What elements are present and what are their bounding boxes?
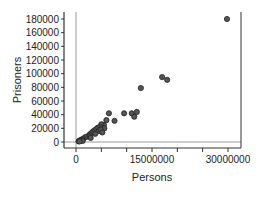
- data-point: [134, 109, 139, 114]
- y-tick-label: 120000: [26, 55, 60, 66]
- data-point: [132, 114, 137, 119]
- y-tick-label: 180000: [26, 14, 60, 25]
- plot-area: [64, 12, 241, 148]
- y-tick-label: 40000: [31, 109, 59, 120]
- data-point: [93, 131, 98, 136]
- y-axis: 0200004000060000800001000001200001400001…: [26, 12, 64, 148]
- y-tick-label: 0: [53, 137, 59, 148]
- data-point: [122, 111, 127, 116]
- scatter-chart: 01500000030000000 0200004000060000800001…: [0, 0, 265, 197]
- y-tick-label: 80000: [31, 82, 59, 93]
- y-tick-label: 20000: [31, 123, 59, 134]
- data-point: [77, 139, 82, 144]
- x-tick-label: 30000000: [206, 154, 251, 165]
- data-point: [160, 74, 165, 79]
- data-point: [138, 85, 143, 90]
- y-axis-label: Prisoners: [11, 56, 23, 103]
- y-tick-label: 100000: [26, 68, 60, 79]
- x-tick-label: 0: [73, 154, 79, 165]
- data-point: [112, 118, 117, 123]
- y-tick-label: 140000: [26, 41, 60, 52]
- data-point: [224, 16, 229, 21]
- y-tick-label: 160000: [26, 27, 60, 38]
- data-point: [104, 118, 109, 123]
- y-tick-label: 60000: [31, 96, 59, 107]
- data-point: [106, 111, 111, 116]
- x-tick-label: 15000000: [130, 154, 175, 165]
- chart-canvas: 01500000030000000 0200004000060000800001…: [0, 0, 265, 197]
- data-point: [165, 77, 170, 82]
- data-point: [100, 130, 105, 135]
- x-axis-label: Persons: [132, 171, 173, 183]
- data-point: [88, 135, 93, 140]
